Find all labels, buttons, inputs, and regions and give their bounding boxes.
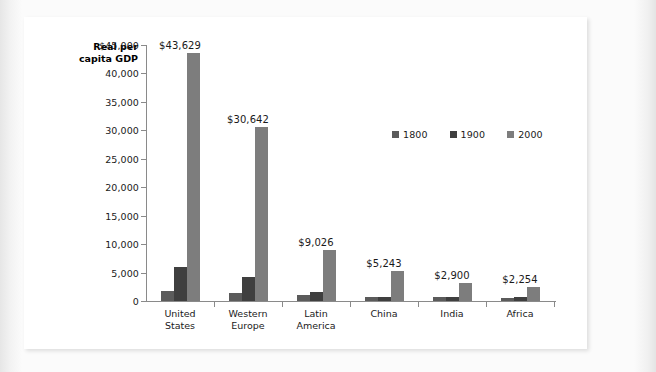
x-axis-line	[146, 301, 556, 302]
x-tick-separator-1	[214, 302, 215, 307]
bar-group-western-europe: $30,642 Western Europe	[214, 45, 282, 301]
x-tick-separator-4	[418, 302, 419, 307]
y-tick-label-20000: 20,000	[105, 182, 139, 193]
y-tick-label-10000: 10,000	[105, 239, 139, 250]
page-background: Real per capita GDP 1800 1900 2000 $45,0…	[0, 0, 656, 372]
bar-2000-india[interactable]	[459, 283, 472, 301]
x-tick-separator-3	[350, 302, 351, 307]
chart-card: Real per capita GDP 1800 1900 2000 $45,0…	[24, 17, 587, 349]
x-axis-label-china: China	[370, 308, 397, 320]
bar-1800-africa[interactable]	[501, 298, 514, 301]
y-tick-label-30000: 30,000	[105, 125, 139, 136]
bar-group-latin-america: $9,026 Latin America	[282, 45, 350, 301]
x-axis-label-africa: Africa	[506, 308, 533, 320]
plot-area: $45,000 40,000 35,000 30,000 25,000 20,0…	[146, 45, 556, 302]
bar-1900-united-states[interactable]	[174, 267, 187, 301]
y-tick-label-5000: 5,000	[111, 268, 139, 279]
y-tick-label-0: 0	[133, 296, 139, 307]
bar-group-united-states: $43,629 United States	[146, 45, 214, 301]
y-tick-0	[141, 301, 146, 302]
bar-2000-western-europe[interactable]	[255, 127, 268, 301]
x-axis-label-india: India	[440, 308, 463, 320]
bar-2000-china[interactable]	[391, 271, 404, 301]
bar-1900-africa[interactable]	[514, 297, 527, 301]
y-tick-label-25000: 25,000	[105, 154, 139, 165]
bar-1800-latin-america[interactable]	[297, 295, 310, 301]
y-tick-label-35000: 35,000	[105, 97, 139, 108]
bar-1900-india[interactable]	[446, 297, 459, 301]
bar-2000-africa[interactable]	[527, 287, 540, 301]
bar-1900-latin-america[interactable]	[310, 292, 323, 301]
bar-2000-latin-america[interactable]	[323, 250, 336, 301]
x-tick-separator-2	[282, 302, 283, 307]
bar-1800-western-europe[interactable]	[229, 293, 242, 301]
bar-1800-india[interactable]	[433, 297, 446, 301]
y-tick-label-45000: $45,000	[99, 40, 139, 51]
x-axis-label-united-states: United States	[164, 308, 195, 331]
bar-2000-united-states[interactable]	[187, 53, 200, 301]
bar-1900-western-europe[interactable]	[242, 277, 255, 301]
bar-group-africa: $2,254 Africa	[486, 45, 554, 301]
y-tick-label-40000: 40,000	[105, 68, 139, 79]
bar-1800-china[interactable]	[365, 297, 378, 301]
bar-group-china: $5,243 China	[350, 45, 418, 301]
bar-group-india: $2,900 India	[418, 45, 486, 301]
bar-1900-china[interactable]	[378, 297, 391, 301]
bar-1800-united-states[interactable]	[161, 291, 174, 301]
x-axis-label-western-europe: Western Europe	[229, 308, 268, 331]
x-axis-label-latin-america: Latin America	[296, 308, 335, 331]
x-tick-separator-5	[486, 302, 487, 307]
x-tick-separator-6	[554, 302, 555, 307]
y-tick-label-15000: 15,000	[105, 211, 139, 222]
